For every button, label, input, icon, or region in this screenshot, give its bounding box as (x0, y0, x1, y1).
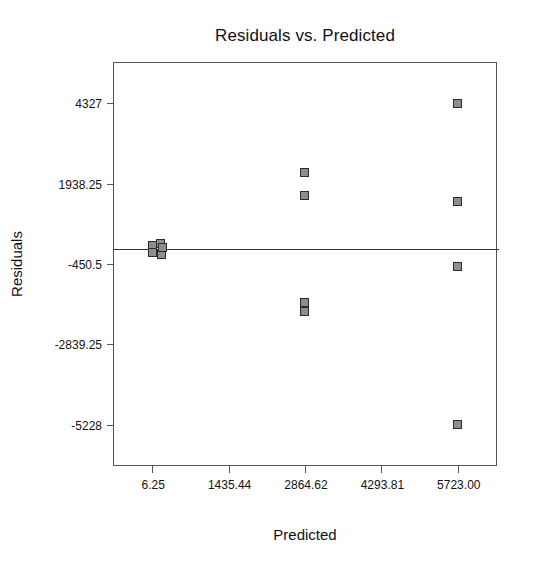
y-axis-tick-label: -5228 (71, 418, 102, 434)
y-axis-tick: -2839.25 (107, 344, 114, 345)
y-axis-tick-label: -2839.25 (55, 337, 102, 353)
y-axis-tick-label: -450.5 (68, 257, 102, 273)
residuals-vs-predicted-chart: Residuals vs. Predicted 43271938.25-450.… (0, 0, 539, 575)
x-axis-tick-label: 4293.81 (361, 477, 404, 493)
data-point-marker (148, 248, 157, 257)
data-point-marker (158, 243, 167, 252)
x-axis-tick-label: 1435.44 (208, 477, 251, 493)
plot-frame: 43271938.25-450.5-2839.25-52286.251435.4… (113, 62, 497, 466)
x-axis-tick: 4293.81 (381, 465, 382, 473)
data-point-marker (453, 197, 462, 206)
chart-title: Residuals vs. Predicted (113, 26, 497, 46)
x-axis-tick-label: 6.25 (142, 477, 165, 493)
y-axis-tick: 1938.25 (107, 184, 114, 185)
data-point-marker (300, 191, 309, 200)
x-axis-tick-label: 5723.00 (437, 477, 480, 493)
x-axis-label: Predicted (113, 526, 497, 543)
data-point-marker (453, 262, 462, 271)
data-point-marker (453, 99, 462, 108)
x-axis-tick: 2864.62 (305, 465, 306, 473)
y-axis-tick: -450.5 (107, 264, 114, 265)
data-point-marker (300, 168, 309, 177)
y-axis-tick: -5228 (107, 425, 114, 426)
y-axis-tick-label: 1938.25 (59, 177, 102, 193)
x-axis-tick-label: 2864.62 (284, 477, 327, 493)
x-axis-tick: 5723.00 (458, 465, 459, 473)
y-axis-tick-label: 4327 (75, 96, 102, 112)
y-axis-tick: 4327 (107, 103, 114, 104)
data-point-marker (453, 420, 462, 429)
y-axis-label: Residuals (8, 231, 25, 297)
data-point-marker (300, 298, 309, 307)
x-axis-tick: 6.25 (152, 465, 153, 473)
data-point-marker (300, 307, 309, 316)
x-axis-tick: 1435.44 (229, 465, 230, 473)
plot-area: 43271938.25-450.5-2839.25-52286.251435.4… (114, 63, 496, 465)
zero-reference-line (113, 249, 499, 250)
